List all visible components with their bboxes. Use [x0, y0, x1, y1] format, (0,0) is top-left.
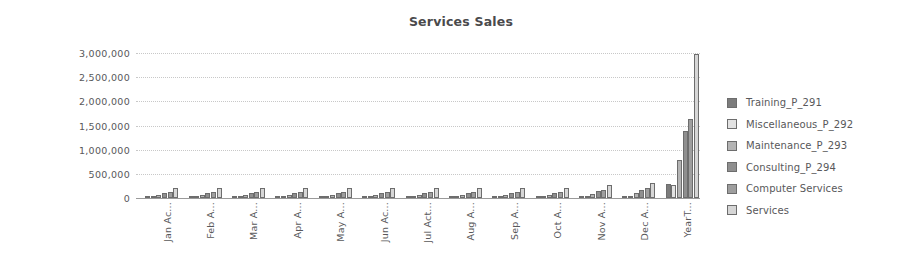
bar [189, 196, 194, 198]
x-axis-baseline [136, 198, 700, 199]
bar [541, 196, 546, 198]
chart-title: Services Sales [0, 14, 922, 29]
y-tick-label: 500,000 [40, 168, 130, 179]
bar-group [622, 53, 655, 198]
bar [200, 195, 205, 198]
legend-item[interactable]: Maintenance_P_293 [727, 135, 917, 157]
bar [520, 188, 525, 198]
legend-item[interactable]: Consulting_P_294 [727, 157, 917, 179]
bar [390, 188, 395, 198]
bar-group [449, 53, 482, 198]
bar-group [145, 53, 178, 198]
plot-area [136, 53, 700, 198]
bar [564, 188, 569, 198]
bar [671, 185, 676, 198]
bar [156, 195, 161, 198]
bar [650, 183, 655, 198]
bar [579, 196, 584, 198]
x-axis: Jan Ac...Feb A...Mar A...Apr A...May A..… [136, 200, 700, 262]
legend-item[interactable]: Miscellaneous_P_292 [727, 114, 917, 136]
bar [373, 195, 378, 198]
bar [232, 196, 237, 198]
bar-group [579, 53, 612, 198]
x-tick-label: YearT... [682, 202, 693, 237]
legend-swatch-icon [727, 162, 737, 172]
legend-item[interactable]: Services [727, 200, 917, 222]
bar-group [189, 53, 222, 198]
bar [260, 188, 265, 198]
bar [287, 195, 292, 198]
bar [173, 188, 178, 198]
bar-group [536, 53, 569, 198]
bar [503, 195, 508, 198]
bar [558, 192, 563, 198]
bar-group [362, 53, 395, 198]
x-tick-label: Apr A... [292, 202, 303, 238]
bar [385, 192, 390, 198]
legend-label: Maintenance_P_293 [746, 140, 847, 151]
bar [552, 193, 557, 198]
bar-group [319, 53, 352, 198]
y-tick-label: 2,500,000 [40, 72, 130, 83]
bar [330, 195, 335, 198]
bar [634, 193, 639, 198]
bar [243, 195, 248, 198]
y-tick-label: 2,000,000 [40, 96, 130, 107]
legend-label: Training_P_291 [746, 97, 822, 108]
y-axis: 3,000,0002,500,0002,000,0001,500,0001,00… [40, 53, 130, 198]
bar [406, 196, 411, 198]
bar [536, 196, 541, 198]
bar [254, 192, 259, 198]
bar [298, 192, 303, 198]
bar [292, 193, 297, 198]
bar [275, 196, 280, 198]
x-tick-label: Jun Ac... [379, 202, 390, 242]
bar [422, 193, 427, 198]
bar [434, 188, 439, 198]
x-tick-label: Feb A... [205, 202, 216, 239]
legend-swatch-icon [727, 98, 737, 108]
legend-label: Consulting_P_294 [746, 162, 836, 173]
bar [683, 131, 688, 198]
bar-group [492, 53, 525, 198]
bar [492, 196, 497, 198]
bar [145, 196, 150, 198]
bar [688, 119, 693, 198]
x-tick-label: May A... [335, 202, 346, 242]
bar [590, 194, 595, 198]
bar [249, 193, 254, 198]
bar [303, 188, 308, 198]
bar [460, 195, 465, 198]
legend-item[interactable]: Training_P_291 [727, 92, 917, 114]
bar [379, 193, 384, 198]
y-tick-label: 1,500,000 [40, 120, 130, 131]
bar [466, 193, 471, 198]
bar [428, 192, 433, 198]
bar [694, 54, 699, 198]
bar [622, 196, 627, 198]
bar [368, 196, 373, 198]
bar [471, 192, 476, 198]
bar [347, 188, 352, 198]
chart-legend: Training_P_291Miscellaneous_P_292Mainten… [727, 92, 917, 221]
bar-group [406, 53, 439, 198]
bar [677, 160, 682, 198]
bar [281, 196, 286, 198]
legend-swatch-icon [727, 205, 737, 215]
legend-item[interactable]: Computer Services [727, 178, 917, 200]
bar [324, 196, 329, 198]
bar [607, 185, 612, 198]
bar [238, 196, 243, 198]
x-tick-label: Nov A... [596, 202, 607, 241]
legend-label: Computer Services [746, 183, 843, 194]
x-tick-label: Sep A... [509, 202, 520, 240]
bar [217, 188, 222, 198]
x-tick-label: Aug A... [465, 202, 476, 241]
bar [645, 188, 650, 198]
bar [362, 196, 367, 198]
y-tick-label: 1,000,000 [40, 144, 130, 155]
x-tick-label: Jul Act... [422, 202, 433, 243]
bar [417, 195, 422, 198]
bar [411, 196, 416, 198]
bar [601, 190, 606, 198]
